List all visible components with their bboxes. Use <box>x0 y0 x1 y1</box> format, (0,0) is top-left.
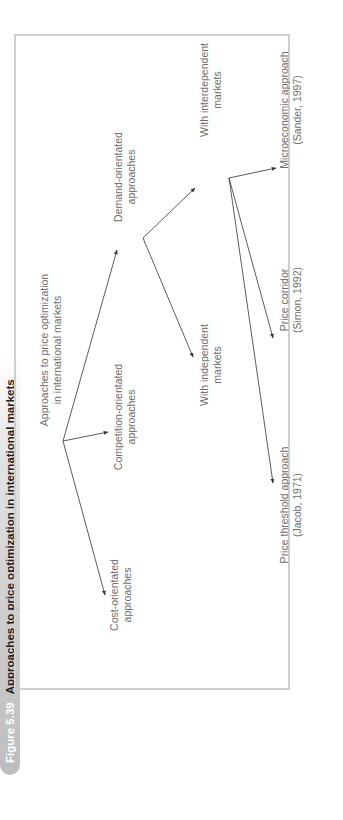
edge-root-to-cost <box>63 441 105 595</box>
node-threshold-line1: Price threshold approach <box>278 430 291 580</box>
edge-root-to-competition <box>63 432 108 441</box>
node-competition-line2: approaches <box>125 342 138 492</box>
node-interdependent: With interdependent markets <box>198 30 224 150</box>
node-microeconomic: Microeconomic approach (Sander, 1997) <box>278 40 304 180</box>
node-root-line1: Approaches to price optimization <box>38 250 51 450</box>
node-demand-line2: approaches <box>125 112 138 242</box>
node-corridor-line1: Price corridor <box>278 245 291 355</box>
node-microeconomic-line1: Microeconomic approach <box>278 40 291 180</box>
node-threshold: Price threshold approach (Jacob, 1971) <box>278 430 304 580</box>
node-root-line2: in international markets <box>51 250 64 450</box>
node-threshold-line2: (Jacob, 1971) <box>291 430 304 580</box>
node-cost-line1: Cost-orientated <box>108 540 121 650</box>
node-microeconomic-line2: (Sander, 1997) <box>291 40 304 180</box>
node-cost-line2: approaches <box>121 540 134 650</box>
edge-interdependent-to-corridor <box>229 178 273 338</box>
node-independent-line1: With independent <box>198 305 211 425</box>
node-competition: Competition-orientated approaches <box>112 342 138 492</box>
node-demand: Demand-orientated approaches <box>112 112 138 242</box>
node-demand-line1: Demand-orientated <box>112 112 125 242</box>
node-competition-line1: Competition-orientated <box>112 342 125 492</box>
node-independent: With independent markets <box>198 305 224 425</box>
node-corridor-line2: (Simon, 1992) <box>291 245 304 355</box>
node-interdependent-line1: With interdependent <box>198 30 211 150</box>
node-root: Approaches to price optimization in inte… <box>38 250 64 450</box>
node-corridor: Price corridor (Simon, 1992) <box>278 245 304 355</box>
node-independent-line2: markets <box>211 305 224 425</box>
edge-interdependent-to-microeconomic <box>229 168 276 178</box>
edge-demand-to-independent <box>143 238 193 357</box>
edge-demand-to-interdependent <box>143 188 195 238</box>
edge-root-to-demand <box>63 250 117 441</box>
node-cost: Cost-orientated approaches <box>108 540 134 650</box>
node-interdependent-line2: markets <box>211 30 224 150</box>
edge-interdependent-to-threshold <box>229 178 273 483</box>
figure-stage: Figure 5.39 Approaches to price optimiza… <box>0 0 343 820</box>
